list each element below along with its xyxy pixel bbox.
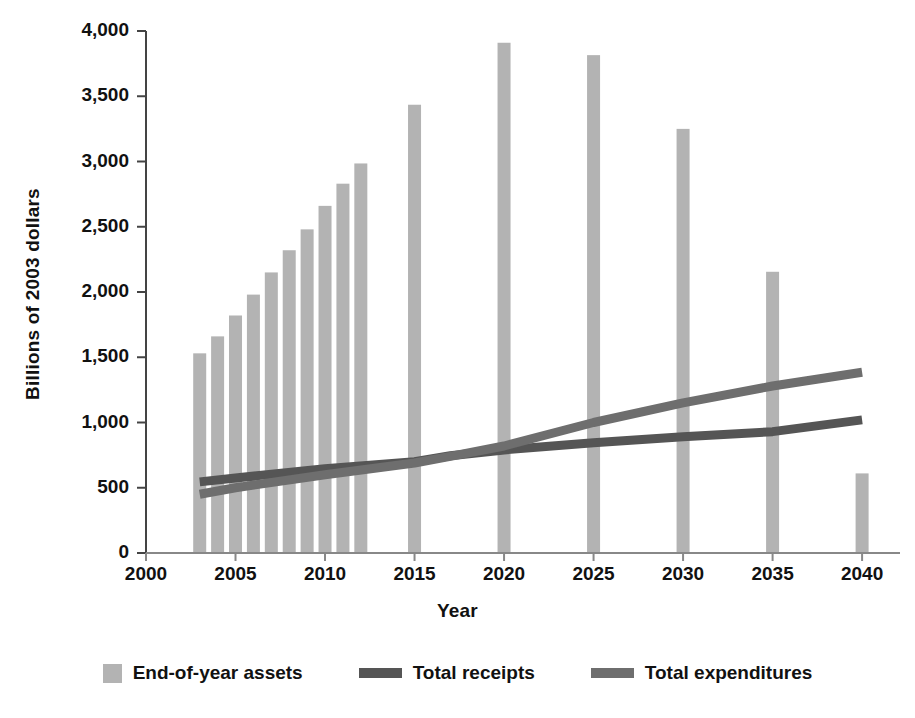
legend-item-total-receipts[interactable]: Total receipts	[359, 662, 535, 684]
x-tick-label-2000: 2000	[101, 563, 191, 585]
y-tick-label-2500: 2,500	[43, 215, 129, 237]
bar-2007	[265, 272, 278, 553]
line-total-receipts	[200, 420, 862, 482]
legend-item-end-of-year-assets[interactable]: End-of-year assets	[103, 662, 303, 684]
y-tick-label-3500: 3,500	[43, 84, 129, 106]
bar-2030	[677, 129, 690, 553]
bar-2015	[408, 105, 421, 553]
y-tick-label-2000: 2,000	[43, 280, 129, 302]
legend-label: End-of-year assets	[133, 662, 303, 684]
bar-2009	[301, 229, 314, 553]
x-tick-label-2030: 2030	[638, 563, 728, 585]
legend-label: Total receipts	[413, 662, 535, 684]
bar-2006	[247, 295, 260, 553]
y-axis-tick-marks	[137, 31, 146, 553]
x-tick-label-2005: 2005	[191, 563, 281, 585]
y-tick-label-0: 0	[43, 541, 129, 563]
x-tick-label-2025: 2025	[549, 563, 639, 585]
bar-2005	[229, 315, 242, 553]
legend-swatch-line-icon	[591, 668, 634, 678]
legend-swatch-square-icon	[103, 664, 122, 683]
chart-legend: End-of-year assetsTotal receiptsTotal ex…	[0, 662, 915, 684]
legend-label: Total expenditures	[645, 662, 813, 684]
x-axis-title: Year	[0, 600, 915, 622]
x-tick-label-2035: 2035	[728, 563, 818, 585]
bar-2020	[498, 43, 511, 553]
bar-2010	[319, 206, 332, 553]
bar-2011	[336, 184, 349, 553]
y-tick-label-1000: 1,000	[43, 411, 129, 433]
chart-container: Billions of 2003 dollars Year 05001,0001…	[0, 0, 915, 718]
x-tick-label-2015: 2015	[370, 563, 460, 585]
y-tick-label-500: 500	[43, 476, 129, 498]
x-tick-label-2010: 2010	[280, 563, 370, 585]
y-tick-label-3000: 3,000	[43, 150, 129, 172]
y-tick-label-4000: 4,000	[43, 19, 129, 41]
line-series-group	[200, 372, 862, 494]
bar-2008	[283, 250, 296, 553]
bar-2003	[193, 353, 206, 553]
legend-swatch-line-icon	[359, 668, 402, 678]
bar-2040	[856, 473, 869, 553]
bar-2004	[211, 336, 224, 553]
legend-item-total-expenditures[interactable]: Total expenditures	[591, 662, 813, 684]
x-tick-label-2040: 2040	[817, 563, 907, 585]
x-tick-label-2020: 2020	[459, 563, 549, 585]
x-axis-tick-marks	[146, 553, 862, 561]
y-tick-label-1500: 1,500	[43, 345, 129, 367]
bar-2012	[354, 163, 367, 553]
y-axis-title: Billions of 2003 dollars	[22, 144, 44, 444]
bar-2035	[766, 272, 779, 553]
bar-2025	[587, 55, 600, 553]
